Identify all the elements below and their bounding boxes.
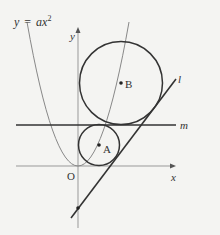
x-axis-arrow-icon <box>170 164 176 169</box>
y-axis-arrow-icon <box>76 27 81 33</box>
line-l-label: l <box>178 73 181 85</box>
line-m-label: m <box>180 119 188 131</box>
intercept-dot <box>76 206 80 210</box>
center-a-dot <box>97 143 101 147</box>
point-a-label: A <box>103 143 111 155</box>
center-b-dot <box>119 81 123 85</box>
point-b-label: B <box>125 78 132 90</box>
curve-label: y = ax2 <box>13 14 51 29</box>
geometry-diagram: y = ax2 y x O A B l m <box>0 0 220 235</box>
x-axis-label: x <box>170 171 176 183</box>
line-l <box>71 79 176 218</box>
y-axis-label: y <box>69 30 75 42</box>
origin-label: O <box>67 170 75 182</box>
